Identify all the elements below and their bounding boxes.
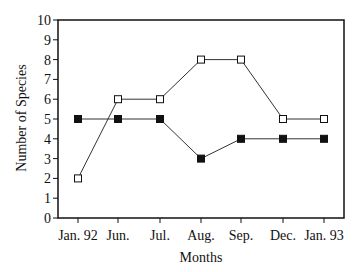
- x-axis-label: Months: [180, 250, 223, 265]
- data-point-marker: [157, 116, 164, 123]
- data-point-marker: [198, 56, 205, 63]
- data-point-marker: [198, 155, 205, 162]
- data-point-marker: [157, 96, 164, 103]
- data-point-marker: [321, 116, 328, 123]
- y-tick-label: 10: [37, 13, 51, 28]
- data-series: [75, 56, 328, 182]
- y-tick-label: 8: [44, 53, 51, 68]
- x-tick-label: Dec.: [270, 228, 296, 243]
- data-point-marker: [115, 96, 122, 103]
- series-filled-square: [75, 116, 328, 163]
- x-tick-label: Jan. 92: [58, 228, 98, 243]
- y-tick-label: 1: [44, 191, 51, 206]
- y-tick-label: 2: [44, 171, 51, 186]
- x-tick-label: Jan. 93: [304, 228, 344, 243]
- y-axis-ticks: 012345678910: [37, 13, 58, 226]
- y-tick-label: 4: [44, 132, 51, 147]
- data-point-marker: [75, 116, 82, 123]
- y-tick-label: 0: [44, 211, 51, 226]
- x-tick-label: Jun.: [107, 228, 130, 243]
- data-point-marker: [238, 135, 245, 142]
- x-tick-label: Jul.: [150, 228, 170, 243]
- data-point-marker: [280, 135, 287, 142]
- x-tick-label: Aug.: [187, 228, 215, 243]
- data-point-marker: [280, 116, 287, 123]
- series-line: [78, 119, 324, 159]
- line-chart: 012345678910 Jan. 92Jun.Jul.Aug.Sep.Dec.…: [0, 0, 364, 272]
- data-point-marker: [321, 135, 328, 142]
- y-tick-label: 9: [44, 33, 51, 48]
- data-point-marker: [115, 116, 122, 123]
- x-axis-ticks: Jan. 92Jun.Jul.Aug.Sep.Dec.Jan. 93: [58, 218, 344, 243]
- y-axis-label: Number of Species: [14, 64, 29, 171]
- data-point-marker: [75, 175, 82, 182]
- y-tick-label: 5: [44, 112, 51, 127]
- data-point-marker: [238, 56, 245, 63]
- y-tick-label: 6: [44, 92, 51, 107]
- x-tick-label: Sep.: [229, 228, 254, 243]
- y-tick-label: 7: [44, 72, 51, 87]
- y-tick-label: 3: [44, 152, 51, 167]
